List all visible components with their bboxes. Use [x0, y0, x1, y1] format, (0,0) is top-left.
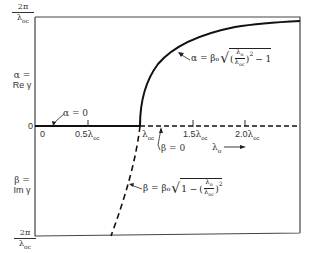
- x-tick-label-0.5: 0.5λoc: [75, 130, 100, 143]
- sqrt-symbol: √: [220, 50, 229, 66]
- x-tick-label-1.5: 1.5λoc: [183, 130, 208, 143]
- y-max-label: 2π λoc: [12, 3, 34, 25]
- x-direction-arrowhead: [240, 145, 246, 149]
- y-upper-axis-title: α = Re γ: [8, 70, 36, 90]
- beta-curve: [111, 126, 140, 236]
- x-origin-label: 0: [40, 130, 45, 139]
- alpha-curve: [140, 21, 300, 126]
- beta-curve-arrowhead: [129, 183, 134, 187]
- alpha-equation: α = βo √ ( λo λoc ) 2 − 1: [191, 48, 271, 69]
- y-zero-label: 0: [28, 122, 33, 131]
- beta-zero-arrowhead: [159, 127, 163, 133]
- beta-equation: β = βo √ 1 − ( λo λoc ) 2: [143, 178, 222, 199]
- y-min-label: 2π λoc: [14, 229, 36, 251]
- x-tick-label-cutoff: λoc: [142, 130, 154, 143]
- x-axis-variable: λo: [212, 143, 221, 155]
- alpha-zero-annotation: α = 0: [63, 109, 88, 118]
- diagram-canvas: [0, 0, 310, 253]
- beta-zero-annotation: β = 0: [161, 144, 185, 153]
- sqrt-symbol: √: [171, 180, 180, 196]
- x-tick-label-2.0: 2.0λoc: [235, 130, 260, 143]
- y-lower-axis-title: β = Im γ: [8, 175, 36, 195]
